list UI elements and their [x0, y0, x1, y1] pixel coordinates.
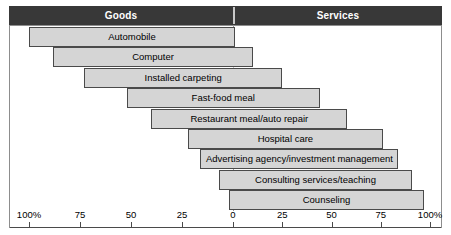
bar-label: Installed carpeting [145, 72, 222, 83]
bar-row: Installed carpeting [84, 68, 282, 88]
axis-tick-label: 100% [405, 209, 451, 221]
axis-tick [282, 222, 283, 228]
axis-tick-label: 50 [106, 209, 156, 221]
axis-tick-label: 25 [257, 209, 307, 221]
chart-figure: Goods Services AutomobileComputerInstall… [0, 0, 451, 235]
bar-label: Consulting services/teaching [255, 174, 376, 185]
axis-tick [131, 222, 132, 228]
axis-tick [80, 222, 81, 228]
axis-tick-label: 25 [157, 209, 207, 221]
bar-row: Counseling [229, 190, 424, 210]
axis-tick [381, 222, 382, 228]
bar-label: Advertising agency/investment management [206, 153, 393, 164]
axis-tick [332, 222, 333, 228]
bar-row: Restaurant meal/auto repair [151, 109, 347, 129]
axis-tick-label: 75 [356, 209, 406, 221]
axis-tick-label: 100% [4, 209, 54, 221]
bars-layer: AutomobileComputerInstalled carpetingFas… [0, 0, 451, 235]
axis-tick-label: 50 [307, 209, 357, 221]
bar-row: Consulting services/teaching [219, 170, 413, 190]
axis-tick [29, 222, 30, 228]
bar-row: Automobile [29, 27, 235, 47]
bar-label: Counseling [303, 194, 351, 205]
axis-tick [182, 222, 183, 228]
bar-label: Automobile [108, 31, 156, 42]
bar-row: Hospital care [188, 129, 383, 149]
axis-tick-label: 75 [55, 209, 105, 221]
bar-row: Computer [53, 47, 252, 67]
bar-row: Fast-food meal [127, 88, 320, 108]
x-axis-line [10, 227, 441, 228]
bar-label: Hospital care [258, 133, 313, 144]
axis-tick [430, 222, 431, 228]
axis-tick-label: 0 [208, 209, 258, 221]
bar-label: Computer [132, 51, 174, 62]
axis-tick [233, 222, 234, 228]
bar-row: Advertising agency/investment management [200, 149, 398, 169]
bar-label: Fast-food meal [192, 92, 255, 103]
bar-label: Restaurant meal/auto repair [190, 113, 308, 124]
